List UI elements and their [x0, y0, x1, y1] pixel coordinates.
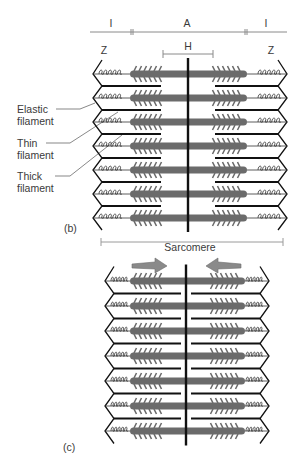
arrow-right-icon [132, 258, 167, 273]
z-line-left [93, 60, 102, 230]
band-scale-bar [90, 29, 287, 35]
panel-b-relaxed-sarcomere [93, 58, 287, 232]
panel-c-contracted-sarcomere [105, 265, 269, 446]
sarcomere-diagram [0, 0, 305, 465]
arrow-left-icon [206, 258, 241, 273]
callout-leaders [46, 103, 122, 176]
sarcomere-scale-bar [101, 238, 283, 246]
h-zone-bar [163, 50, 213, 58]
